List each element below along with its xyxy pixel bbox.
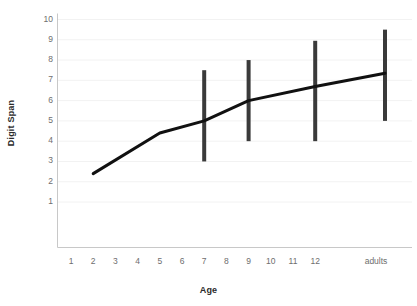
x-tick-label-7: 7 xyxy=(202,256,207,266)
x-tick-label-11: 11 xyxy=(289,256,298,266)
x-tick-label-12: 12 xyxy=(310,256,319,266)
x-tick-label-10: 10 xyxy=(266,256,275,266)
x-tick-label-3: 3 xyxy=(113,256,118,266)
x-tick-label-adults: adults xyxy=(365,256,388,266)
error-bars xyxy=(204,30,385,162)
x-tick-label-2: 2 xyxy=(91,256,96,266)
x-tick-label-1: 1 xyxy=(69,256,74,266)
x-tick-label-6: 6 xyxy=(180,256,185,266)
x-axis-title: Age xyxy=(0,285,417,295)
series-line-0 xyxy=(93,73,385,173)
gridlines xyxy=(58,20,413,203)
x-tick-label-5: 5 xyxy=(157,256,162,266)
x-tick-label-4: 4 xyxy=(135,256,140,266)
x-tick-label-8: 8 xyxy=(224,256,229,266)
digit-span-line-chart: Digit Span 10987654321 123456789101112ad… xyxy=(0,0,417,306)
x-axis-tick-labels: 123456789101112adults xyxy=(0,256,417,272)
x-tick-label-9: 9 xyxy=(246,256,251,266)
